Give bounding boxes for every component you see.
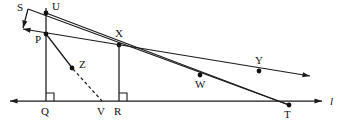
vertex-dot-w — [198, 73, 203, 78]
point-label-v: V — [97, 106, 105, 117]
point-label-x: X — [115, 28, 123, 39]
line-l-label: l — [330, 96, 333, 107]
segment-P-Z — [46, 34, 73, 69]
segment-Z-V — [73, 69, 102, 101]
point-label-r: R — [114, 106, 121, 117]
ray-P-X-W-Y-arrow-start — [23, 28, 31, 33]
point-label-y: Y — [255, 55, 263, 66]
ray-P-X-W-Y-arrow-end — [302, 72, 310, 77]
point-label-s: S — [17, 2, 23, 13]
right-angle-marks-layer — [46, 93, 127, 101]
segments-layer — [10, 8, 322, 105]
point-label-w: W — [195, 79, 205, 90]
point-label-p: P — [35, 34, 41, 45]
point-label-u: U — [52, 1, 60, 12]
vertex-dot-y — [257, 69, 262, 74]
vertex-dot-z — [70, 66, 75, 71]
figure-canvas — [0, 0, 353, 126]
point-label-q: Q — [41, 106, 49, 117]
vertex-dot-t — [287, 103, 292, 108]
ray-S-through-P-arrow-end — [22, 20, 27, 28]
line-l-arrow-start — [10, 98, 18, 103]
ray-P-X-W-Y — [23, 29, 310, 76]
line-l-arrow-end — [315, 98, 323, 103]
right-angle-at-R — [119, 93, 127, 101]
point-label-z: Z — [79, 59, 86, 70]
vertex-dot-p — [44, 32, 49, 37]
point-label-t: T — [284, 109, 291, 120]
vertex-dot-u — [44, 11, 49, 16]
vertex-dot-x — [117, 43, 122, 48]
right-angle-at-Q — [46, 93, 54, 101]
geometry-diagram: SUPXZYWQVRT l — [0, 0, 353, 126]
